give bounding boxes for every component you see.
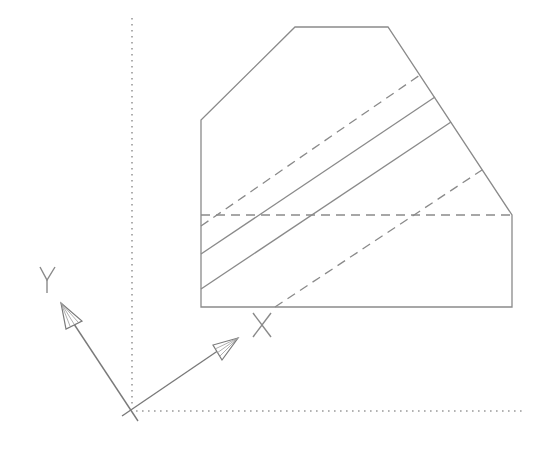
ucs-icon [40,267,271,421]
diagonal-solid-line-1[interactable] [201,97,435,254]
diagonal-dashed-line-upper[interactable] [201,75,420,226]
ucs-x-axis-line [122,348,222,416]
ucs-x-arrowhead-icon [213,338,238,360]
ucs-x-label [253,313,271,337]
ucs-y-axis-line [70,318,138,421]
diagonal-dashed-line-lower[interactable] [275,170,482,307]
diagonal-solid-line-2[interactable] [201,122,451,289]
drawing-canvas[interactable] [0,0,543,450]
ucs-y-label [40,267,55,293]
shape-outline[interactable] [201,27,512,307]
ucs-y-arrowhead-icon [61,303,82,329]
